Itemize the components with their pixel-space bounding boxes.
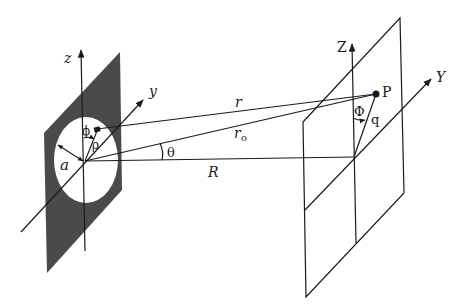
theta-arc [160,143,163,160]
label-P: P [382,84,391,100]
label-rho: ρ [92,138,99,152]
label-R: R [207,164,219,180]
label-a: a [60,156,69,174]
label-theta: θ [167,145,175,160]
label-phi: ϕ [82,124,90,138]
diffraction-geometry-diagram: z y a ϕ ρ r r o R θ Z Y P Φ q [0,0,467,307]
label-y: y [148,83,158,99]
label-r0: r o [234,125,247,143]
ray-r0 [85,94,376,161]
label-Z: Z [337,39,347,55]
diagram-svg: z y a ϕ ρ r r o R θ Z Y P Φ q [0,0,467,307]
label-z: z [63,50,72,66]
ray-R [85,157,354,161]
svg-text:o: o [241,132,247,143]
Z-axis [352,44,356,243]
point-P-marker [373,91,380,98]
label-q: q [371,112,379,127]
label-r: r [235,94,243,110]
ray-lines [85,94,376,161]
label-Phi: Φ [354,104,365,119]
Y-axis [305,79,431,210]
label-Y: Y [436,69,447,85]
